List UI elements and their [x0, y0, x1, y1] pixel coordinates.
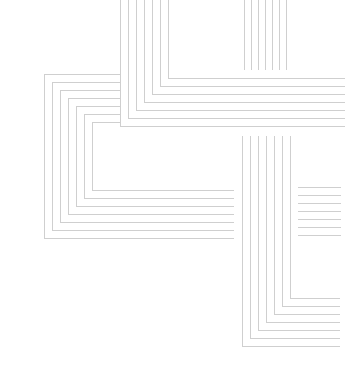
line-stroke — [93, 123, 235, 191]
line-stroke — [77, 107, 235, 207]
line-stroke — [267, 136, 341, 323]
line-stroke — [85, 115, 235, 199]
line-stroke — [275, 136, 341, 315]
left-block-corner-lines — [45, 75, 235, 239]
line-stroke — [251, 136, 341, 339]
line-stroke — [283, 136, 341, 307]
bottom-right-corner-lines — [243, 136, 341, 347]
top-right-vertical-lines — [245, 0, 287, 70]
line-stroke — [45, 75, 235, 239]
top-center-corner-lines — [121, 0, 346, 127]
line-stroke — [53, 83, 235, 231]
line-stroke — [291, 136, 341, 299]
line-stroke — [69, 99, 235, 215]
line-stroke — [161, 0, 346, 87]
line-stroke — [137, 0, 346, 111]
line-stroke — [153, 0, 346, 95]
line-stroke — [259, 136, 341, 331]
right-horizontal-lines — [298, 188, 341, 236]
line-stroke — [121, 0, 346, 127]
line-stroke — [169, 0, 346, 79]
abstract-line-art — [0, 0, 346, 374]
